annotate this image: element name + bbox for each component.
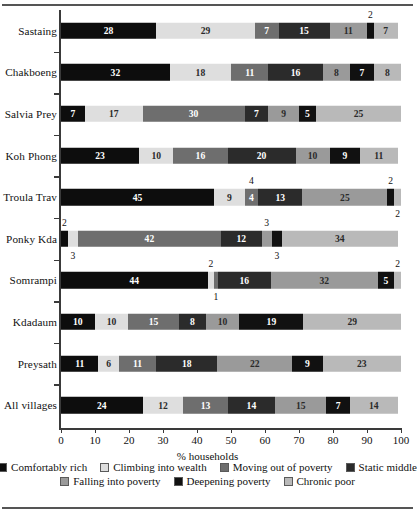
bar-segment: 22 — [217, 355, 292, 372]
bar-segment-value: 28 — [104, 26, 114, 36]
bar-segment: 8 — [179, 314, 206, 331]
bar-segment-value: 8 — [334, 68, 339, 78]
bar-segment-value: 10 — [107, 317, 117, 327]
bar-segment-value: 24 — [97, 400, 107, 410]
bar-segment-callout: 2 — [209, 259, 214, 269]
bar-segment-value: 10 — [218, 317, 228, 327]
bar-segment-value: 42 — [145, 234, 155, 244]
bar-row: Koh Phong2310162010911 — [0, 135, 415, 177]
bar-segment: 7 — [61, 106, 85, 123]
legend-item[interactable]: Falling into poverty — [60, 476, 160, 487]
bar-segment: 7 — [326, 397, 350, 414]
legend-item[interactable]: Static middle — [346, 462, 417, 473]
x-axis-tick-label: 70 — [294, 434, 305, 446]
top-divider-rule — [2, 4, 413, 6]
legend-swatch-icon — [100, 463, 109, 472]
x-axis-tick-label: 40 — [192, 434, 203, 446]
bar-row: Chakboeng32181116878 — [0, 52, 415, 94]
bar-segment: 44 — [61, 272, 208, 289]
legend-item[interactable]: Climbing into wealth — [100, 462, 207, 473]
bar-segment-value: 9 — [305, 359, 310, 369]
bar-segment: 16 — [218, 272, 271, 289]
y-axis-tick — [54, 52, 60, 53]
bar-segment-callout: 2 — [388, 176, 393, 186]
stacked-bar: 282971511227 — [61, 23, 401, 40]
legend-item[interactable]: Moving out of poverty — [220, 462, 333, 473]
bar-segment: 11 — [231, 64, 268, 81]
bar-segment-value: 13 — [201, 400, 211, 410]
bar-segment-value: 10 — [73, 317, 83, 327]
x-axis-tick-label: 50 — [226, 434, 237, 446]
bar-segment: 29 — [303, 314, 401, 331]
bar-segment-value: 9 — [227, 192, 232, 202]
bar-segment-value: 4 — [249, 192, 254, 202]
bar-segment-value: 17 — [109, 109, 119, 119]
bar-segment-value: 12 — [158, 400, 168, 410]
bar-segment: 18 — [156, 355, 217, 372]
bar-segment: 25 — [316, 106, 401, 123]
bar-segment: 5 — [378, 272, 395, 289]
bar-segment: 10 — [61, 314, 95, 331]
legend-swatch-icon — [60, 477, 69, 486]
legend-item[interactable]: Chronic poor — [284, 476, 355, 487]
bar-segment-value: 23 — [357, 359, 367, 369]
bar-segment: 6 — [98, 355, 118, 372]
x-axis-tick-label: 80 — [328, 434, 339, 446]
bar-segment: 20 — [228, 147, 296, 164]
legend-item[interactable]: Comfortably rich — [0, 462, 87, 473]
bar-segment: 24 — [61, 397, 143, 414]
plot-area: Sastaing282971511227Chakboeng32181116878… — [0, 10, 415, 428]
y-axis-tick — [54, 176, 60, 177]
bar-segment-value: 19 — [267, 317, 277, 327]
bar-segment-value: 18 — [182, 359, 192, 369]
x-axis-tick — [61, 428, 62, 433]
bar-segment: 14 — [350, 397, 398, 414]
bar-segment: 22 — [394, 272, 401, 289]
stacked-bar: 2412131415714 — [61, 397, 401, 414]
bar-segment-callout: 3 — [264, 217, 269, 227]
bar-segment: 18 — [170, 64, 231, 81]
bar-segment: 33 — [272, 231, 282, 248]
bar-segment-value: 16 — [240, 276, 250, 286]
x-axis-tick-label: 20 — [124, 434, 135, 446]
legend-item-label: Falling into poverty — [73, 476, 160, 487]
x-axis-tick — [129, 428, 130, 433]
legend-item[interactable]: Deepening poverty — [174, 476, 271, 487]
bar-segment: 14 — [228, 397, 276, 414]
legend-row-secondary: Falling into povertyDeepening povertyChr… — [0, 476, 415, 487]
bar-segment-value: 9 — [281, 109, 286, 119]
legend-item-label: Moving out of poverty — [233, 462, 333, 473]
bar-segment: 7 — [350, 64, 374, 81]
bar-segment: 11 — [330, 23, 367, 40]
bar-segment-value: 16 — [291, 68, 301, 78]
bar-segment: 7 — [374, 23, 398, 40]
bar-segment-value: 25 — [340, 192, 350, 202]
legend-item-label: Deepening poverty — [187, 476, 271, 487]
bar-segment: 44 — [245, 189, 259, 206]
bar-segment-value: 13 — [275, 192, 285, 202]
bar-segment: 25 — [302, 189, 387, 206]
y-axis-tick — [54, 135, 60, 136]
bar-segment-value: 22 — [250, 359, 260, 369]
bar-segment-value: 6 — [106, 359, 111, 369]
bar-segment: 22 — [394, 189, 401, 206]
bar-segment-value: 45 — [133, 192, 143, 202]
bar-row-label: Chakboeng — [0, 66, 57, 78]
bar-row: Troula Trav4594413252222 — [0, 176, 415, 218]
bar-segment: 5 — [299, 106, 316, 123]
y-axis-tick — [54, 384, 60, 385]
bar-segment-value: 14 — [247, 400, 257, 410]
bar-segment: 9 — [268, 106, 299, 123]
bar-segment-value: 10 — [151, 151, 161, 161]
bar-row-label: Sastaing — [0, 25, 57, 37]
x-axis-tick-label: 100 — [393, 434, 410, 446]
x-axis-tick-label: 30 — [158, 434, 169, 446]
bar-segment-value: 5 — [384, 276, 389, 286]
chart-legend: Comfortably richClimbing into wealthMovi… — [0, 462, 415, 490]
bar-segment-value: 11 — [75, 359, 84, 369]
bar-segment-value: 44 — [130, 276, 140, 286]
bar-segment: 30 — [143, 106, 245, 123]
bar-segment-value: 11 — [245, 68, 254, 78]
bar-segment: 11 — [119, 355, 156, 372]
